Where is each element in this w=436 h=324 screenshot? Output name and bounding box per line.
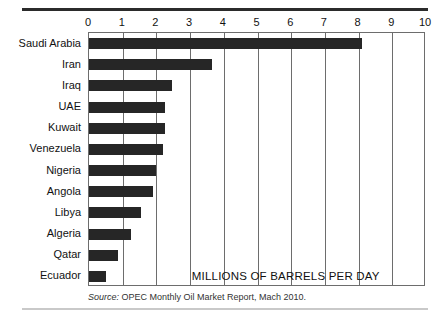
category-label: Algeria bbox=[0, 227, 85, 239]
bar bbox=[89, 271, 106, 282]
category-label: Nigeria bbox=[0, 164, 85, 176]
bar bbox=[89, 250, 118, 261]
chart-annotation-label: MILLIONS OF BARRELS PER DAY bbox=[192, 270, 380, 283]
category-label: Venezuela bbox=[0, 142, 85, 154]
category-label: Ecuador bbox=[0, 269, 85, 281]
bar bbox=[89, 144, 163, 155]
category-label: Saudi Arabia bbox=[0, 37, 85, 49]
x-tick-label: 2 bbox=[142, 15, 168, 29]
x-tick-label: 7 bbox=[311, 15, 337, 29]
bar-row bbox=[89, 186, 424, 197]
x-tick-label: 5 bbox=[244, 15, 270, 29]
bar-row bbox=[89, 38, 424, 49]
bar-row bbox=[89, 80, 424, 91]
x-tick-label: 4 bbox=[210, 15, 236, 29]
x-tick-label: 3 bbox=[176, 15, 202, 29]
source-text: OPEC Monthly Oil Market Report, Mach 201… bbox=[119, 292, 306, 302]
bar-series bbox=[89, 33, 424, 285]
bar bbox=[89, 59, 212, 70]
bar bbox=[89, 38, 362, 49]
bar-row bbox=[89, 229, 424, 240]
x-tick-label: 8 bbox=[345, 15, 371, 29]
y-axis-category-labels: Saudi ArabiaIranIraqUAEKuwaitVenezuelaNi… bbox=[0, 32, 85, 286]
category-label: Libya bbox=[0, 206, 85, 218]
bar bbox=[89, 165, 156, 176]
x-tick-label: 1 bbox=[109, 15, 135, 29]
category-label: Iraq bbox=[0, 79, 85, 91]
bar-row bbox=[89, 207, 424, 218]
bar-row bbox=[89, 165, 424, 176]
bar-row bbox=[89, 102, 424, 113]
bar bbox=[89, 123, 165, 134]
bar bbox=[89, 186, 153, 197]
bar bbox=[89, 102, 165, 113]
category-label: Kuwait bbox=[0, 121, 85, 133]
bar bbox=[89, 207, 141, 218]
bar bbox=[89, 229, 131, 240]
x-axis-tick-labels: 012345678910 bbox=[0, 15, 436, 29]
top-divider-rule bbox=[22, 8, 428, 11]
bar-row bbox=[89, 123, 424, 134]
x-tick-label: 0 bbox=[75, 15, 101, 29]
x-tick-label: 10 bbox=[412, 15, 436, 29]
bar-row bbox=[89, 250, 424, 261]
x-tick-label: 6 bbox=[277, 15, 303, 29]
bar-row bbox=[89, 59, 424, 70]
plot-area: MILLIONS OF BARRELS PER DAY bbox=[88, 32, 425, 286]
category-label: Qatar bbox=[0, 248, 85, 260]
x-tick-label: 9 bbox=[378, 15, 404, 29]
bar-row bbox=[89, 144, 424, 155]
oil-production-bar-chart: 012345678910 Saudi ArabiaIranIraqUAEKuwa… bbox=[0, 0, 436, 324]
category-label: Angola bbox=[0, 185, 85, 197]
bar bbox=[89, 80, 172, 91]
bottom-divider-rule bbox=[22, 308, 428, 310]
category-label: Iran bbox=[0, 58, 85, 70]
source-prefix: Source: bbox=[88, 292, 119, 302]
source-note: Source: OPEC Monthly Oil Market Report, … bbox=[88, 292, 306, 303]
category-label: UAE bbox=[0, 100, 85, 112]
